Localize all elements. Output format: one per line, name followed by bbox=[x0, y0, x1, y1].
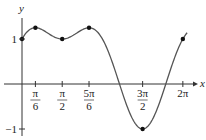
x-tick-denominator: 6 bbox=[33, 100, 39, 112]
axes: xy bbox=[4, 2, 205, 136]
y-axis-label: y bbox=[18, 2, 24, 14]
x-tick-denominator: 6 bbox=[86, 100, 92, 112]
x-tick-numerator: π bbox=[59, 87, 65, 99]
x-axis-arrow-icon bbox=[193, 82, 198, 87]
data-point bbox=[181, 37, 185, 41]
data-point bbox=[87, 26, 91, 30]
data-point bbox=[60, 37, 64, 41]
x-tick-denominator: 2 bbox=[59, 100, 65, 112]
x-tick-label: 2π bbox=[177, 87, 189, 99]
data-point bbox=[33, 26, 37, 30]
marked-points bbox=[20, 26, 185, 132]
x-tick-numerator: 3π bbox=[137, 87, 149, 99]
y-tick-label: −1 bbox=[5, 123, 17, 135]
y-tick-label: 1 bbox=[12, 33, 18, 45]
x-tick-denominator: 2 bbox=[140, 100, 146, 112]
chart: xy π6π25π63π22π1−1 bbox=[0, 0, 206, 140]
x-tick-numerator: π bbox=[33, 87, 39, 99]
function-curve bbox=[22, 28, 187, 129]
x-tick-numerator: 5π bbox=[83, 87, 95, 99]
data-point bbox=[140, 127, 144, 131]
x-axis-label: x bbox=[199, 77, 205, 89]
